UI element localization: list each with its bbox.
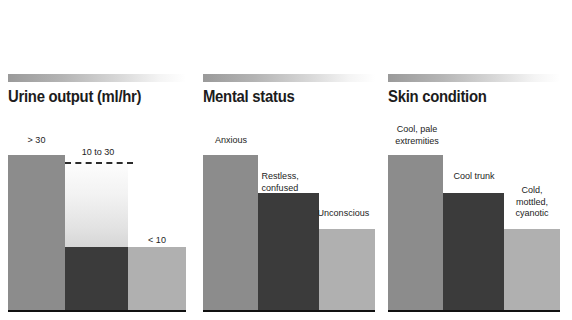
panel-header-gradient-rule <box>8 74 186 82</box>
plot-area: Cool, pale extremities Cool trunk Cold, … <box>388 120 560 312</box>
axis-baseline <box>388 310 560 312</box>
bar-mental-restless-confused <box>258 193 319 310</box>
bar-label-mental-unconscious: Unconscious <box>318 207 377 219</box>
panel-title: Urine output (ml/hr) <box>8 88 141 106</box>
bar-urine-gt30 <box>8 155 65 310</box>
panel-header-gradient-rule <box>203 74 375 82</box>
panel-title: Skin condition <box>388 88 487 106</box>
bar-mental-unconscious <box>319 229 375 310</box>
bar-mental-anxious <box>203 155 258 310</box>
chart-panel-mental-status: Mental status Anxious Restless, confused… <box>195 0 385 320</box>
bar-label-skin-cool-pale-extremities: Cool, pale extremities <box>384 123 451 146</box>
bar-skin-cold-mottled-cyanotic <box>504 229 560 310</box>
bar-urine-10to30-base <box>65 247 128 310</box>
axis-baseline <box>8 310 186 312</box>
panel-title: Mental status <box>203 88 294 106</box>
bar-label-skin-cold-mottled-cyanotic: Cold, mottled, cyanotic <box>505 184 558 219</box>
bar-label-mental-restless-confused: Restless, confused <box>262 170 321 193</box>
bar-label-urine-gt30: > 30 <box>9 134 63 146</box>
bar-urine-lt10 <box>128 247 186 310</box>
chart-panel-skin-condition: Skin condition Cool, pale extremities Co… <box>380 0 572 320</box>
bar-label-mental-anxious: Anxious <box>202 134 261 146</box>
chart-panel-urine-output: Urine output (ml/hr) > 30 10 to 30 < 10 <box>0 0 195 320</box>
plot-area: Anxious Restless, confused Unconscious <box>203 120 375 312</box>
bar-label-skin-cool-trunk: Cool trunk <box>443 170 506 182</box>
bar-label-urine-lt10: < 10 <box>129 234 184 246</box>
bar-label-urine-10to30: 10 to 30 <box>65 146 132 158</box>
bar-skin-cool-pale-extremities <box>388 155 443 310</box>
panel-header-gradient-rule <box>388 74 560 82</box>
plot-area: > 30 10 to 30 < 10 <box>8 120 186 312</box>
reference-dashed-line <box>65 162 133 164</box>
bar-urine-10to30 <box>65 162 128 247</box>
axis-baseline <box>203 310 375 312</box>
bar-skin-cool-trunk <box>443 193 504 310</box>
